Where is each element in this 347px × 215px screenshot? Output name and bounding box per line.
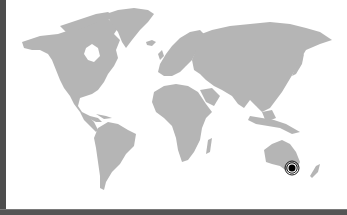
new-zealand: [310, 164, 320, 178]
frame-border-left: [0, 0, 6, 215]
iceland: [146, 40, 156, 46]
uk: [158, 50, 164, 60]
central-america: [80, 112, 98, 132]
caribbean: [96, 114, 112, 119]
location-target-icon[interactable]: [285, 161, 299, 175]
world-map: [0, 0, 347, 215]
map-frame: [0, 0, 347, 215]
north-america: [22, 16, 120, 122]
madagascar: [206, 138, 212, 154]
south-america: [94, 122, 136, 190]
frame-border-bottom: [0, 209, 347, 215]
